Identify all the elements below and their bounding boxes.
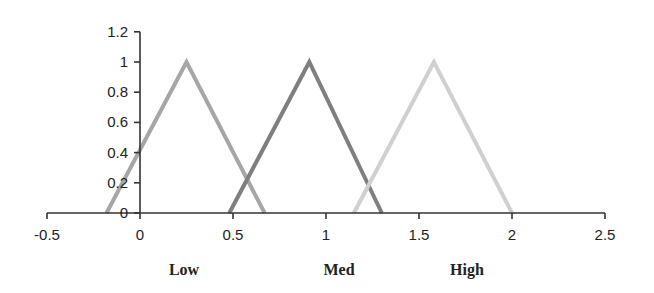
axes: 00.20.40.60.811.2 -0.500.511.522.5 xyxy=(34,23,615,243)
series-line-high xyxy=(354,62,512,213)
x-tick-label: 0 xyxy=(136,226,144,243)
category-label-high: High xyxy=(450,261,484,279)
x-tick-label: 2.5 xyxy=(595,226,616,243)
y-tick-label: 1.2 xyxy=(107,23,128,40)
category-labels: LowMedHigh xyxy=(169,261,484,279)
category-label-med: Med xyxy=(323,261,354,278)
x-tick-label: 1.5 xyxy=(409,226,430,243)
x-tick-label: 1 xyxy=(322,226,330,243)
x-tick-label: 2 xyxy=(508,226,516,243)
y-axis-ticks: 00.20.40.60.811.2 xyxy=(107,23,140,221)
series-layer xyxy=(107,62,513,213)
category-label-low: Low xyxy=(169,261,200,278)
y-tick-label: 1 xyxy=(120,53,128,70)
x-tick-label: 0.5 xyxy=(223,226,244,243)
y-tick-label: 0.4 xyxy=(107,144,128,161)
y-tick-label: 0.8 xyxy=(107,83,128,100)
fuzzy-membership-chart: 00.20.40.60.811.2 -0.500.511.522.5 LowMe… xyxy=(0,0,654,293)
y-tick-label: 0.2 xyxy=(107,174,128,191)
y-tick-label: 0 xyxy=(120,204,128,221)
y-tick-label: 0.6 xyxy=(107,113,128,130)
x-tick-label: -0.5 xyxy=(34,226,60,243)
